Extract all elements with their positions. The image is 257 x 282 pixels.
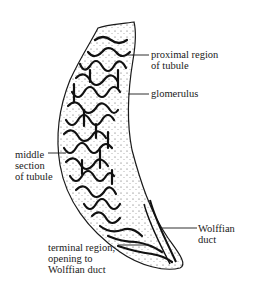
label-wolffian-duct: Wolffian duct [198,223,235,245]
label-middle-section: middle section of tubule [15,149,53,182]
label-proximal-region: proximal region of tubule [151,49,218,71]
label-terminal-region: terminal region, opening to Wolffian duc… [48,242,115,275]
kidney-diagram: proximal region of tubule glomerulus mid… [0,0,257,282]
label-glomerulus: glomerulus [151,88,198,99]
